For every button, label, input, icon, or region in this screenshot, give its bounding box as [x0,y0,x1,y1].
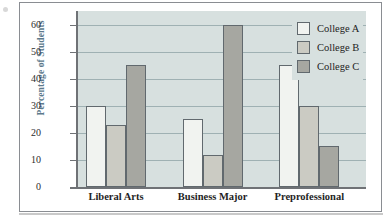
legend-label: College A [317,23,359,34]
legend-swatch [297,22,310,35]
figure-frame: Percentage of Students College ACollege … [19,2,382,212]
bar [319,146,339,187]
bar [126,65,146,187]
legend-swatch [297,60,310,73]
y-tick-label: 0 [7,181,41,192]
legend-item: College C [297,57,359,76]
y-tick-label: 50 [7,46,41,57]
y-tick-mark [70,187,76,189]
grouped-bar-chart: Percentage of Students College ACollege … [20,3,381,211]
y-axis-line [76,11,78,188]
bar [183,119,203,187]
page-edge-shadow [19,213,383,215]
y-tick-mark [70,79,76,81]
y-tick-label: 40 [7,73,41,84]
y-tick-mark [70,52,76,54]
bar [86,106,106,187]
y-tick-mark [70,106,76,108]
bar [106,125,126,187]
bar [299,106,319,187]
legend-label: College C [317,61,359,72]
bar [279,65,299,187]
scan-artifact-speck [3,7,8,12]
y-tick-mark [70,25,76,27]
y-tick-label: 30 [7,100,41,111]
bar [223,25,243,187]
x-axis-category-label: Preprofessional [259,191,359,202]
legend-label: College B [317,42,359,53]
y-tick-label: 60 [7,19,41,30]
y-tick-mark [70,133,76,135]
legend-swatch [297,41,310,54]
x-axis-category-label: Liberal Arts [66,191,166,202]
x-axis-line [70,187,366,189]
legend-item: College A [297,19,359,38]
gridline [76,106,366,107]
y-tick-label: 10 [7,154,41,165]
legend-item: College B [297,38,359,57]
bar [203,155,223,187]
y-tick-label: 20 [7,127,41,138]
x-axis-category-label: Business Major [163,191,263,202]
chart-legend: College ACollege BCollege C [292,15,363,80]
y-tick-mark [70,160,76,162]
scanned-figure-page: Percentage of Students College ACollege … [0,0,386,223]
